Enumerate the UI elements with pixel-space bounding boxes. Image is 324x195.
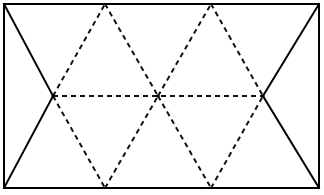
geometric-figure-canvas	[0, 0, 324, 195]
triangular-lattice-figure	[0, 0, 324, 195]
mid-right-vertex-marker	[261, 94, 264, 97]
mid-left-vertex-marker	[51, 94, 54, 97]
figure-background	[0, 0, 324, 195]
mid-center-vertex-marker	[156, 94, 159, 97]
